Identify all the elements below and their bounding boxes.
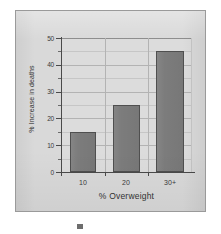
x-axis-line: [61, 172, 195, 173]
y-tick-10: [56, 145, 61, 146]
y-tick-label: 10: [38, 142, 54, 149]
chart-panel: 50 40 30 20 10 0 10 20 30+ % Overweight …: [15, 10, 206, 212]
y-axis-title: % Increase in deaths: [28, 47, 36, 151]
y-tick-label: 0: [38, 169, 54, 176]
y-tick-minor: [58, 132, 61, 133]
y-tick-minor: [58, 78, 61, 79]
y-tick-50: [56, 38, 61, 39]
y-tick-30: [56, 92, 61, 93]
gridline-vertical: [105, 38, 106, 172]
y-tick-20: [56, 118, 61, 119]
y-tick-minor: [58, 51, 61, 52]
x-tick: [148, 172, 149, 176]
x-tick-label-20: 20: [111, 179, 141, 187]
scanned-page: 50 40 30 20 10 0 10 20 30+ % Overweight …: [0, 0, 221, 234]
x-tick: [105, 172, 106, 176]
gridline-vertical: [191, 38, 192, 172]
y-tick-label: 20: [38, 115, 54, 122]
y-tick-label: 40: [38, 61, 54, 68]
x-tick: [61, 172, 62, 176]
x-axis-title: % Overweight: [61, 191, 192, 201]
gridline-vertical: [148, 38, 149, 172]
bar-10: [70, 132, 96, 172]
scan-artifact-mark: [77, 224, 83, 229]
y-tick-minor: [58, 105, 61, 106]
bar-20: [113, 105, 140, 172]
y-axis-line: [61, 37, 62, 173]
y-tick-label: 30: [38, 88, 54, 95]
y-tick-40: [56, 65, 61, 66]
plot-area: [61, 38, 192, 172]
x-tick-label-10: 10: [68, 179, 98, 187]
x-tick-label-30plus: 30+: [155, 179, 185, 187]
y-tick-label: 50: [38, 35, 54, 42]
plot-top-rule: [61, 38, 192, 39]
bar-30plus: [156, 51, 184, 172]
y-tick-minor: [58, 159, 61, 160]
